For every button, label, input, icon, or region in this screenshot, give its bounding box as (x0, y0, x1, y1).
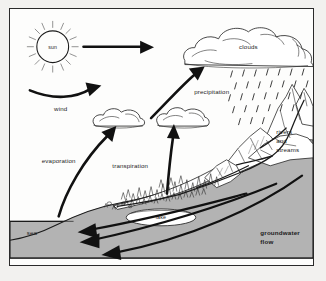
rivers-label-line1: rivers (276, 128, 292, 135)
rivers-label-line3: streams (276, 146, 299, 153)
cloud-small-left (93, 109, 145, 128)
evaporation-label: evaporation (42, 157, 76, 164)
groundwater-label-line1: groundwater (260, 229, 300, 236)
sun-icon: sun (27, 21, 79, 73)
cloud-small-right (157, 108, 210, 128)
wind-arrow[interactable]: wind (30, 82, 102, 112)
sun-label: sun (48, 44, 57, 50)
sun-to-clouds-arrow[interactable] (84, 41, 155, 54)
screenshot-stage: sun clouds (0, 0, 326, 281)
groundwater-label-line2: flow (260, 238, 273, 245)
diagram-frame: sun clouds (9, 8, 314, 266)
clouds-label: clouds (239, 43, 258, 50)
evaporation-arrow[interactable]: evaporation (42, 126, 116, 216)
diagram-canvas: sun clouds (10, 9, 313, 265)
sea-label: sea (27, 229, 38, 236)
wind-label: wind (53, 105, 68, 112)
transpiration-label: transpiration (112, 162, 148, 169)
water-cycle-svg: sun clouds (10, 9, 313, 265)
cloud-large: clouds (184, 28, 313, 68)
rivers-label-line2: and (276, 137, 287, 144)
precipitation-label: precipitation (194, 88, 230, 95)
